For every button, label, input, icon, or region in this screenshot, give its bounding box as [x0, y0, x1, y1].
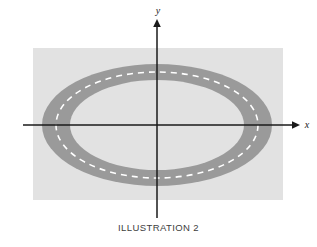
figure-canvas: x y: [0, 0, 317, 247]
illustration-figure: x y ILLUSTRATION 2: [0, 0, 317, 247]
elliptical-track-band: [0, 0, 317, 247]
x-axis-label: x: [304, 119, 310, 130]
y-axis-label: y: [155, 5, 161, 16]
figure-caption: ILLUSTRATION 2: [0, 222, 317, 233]
